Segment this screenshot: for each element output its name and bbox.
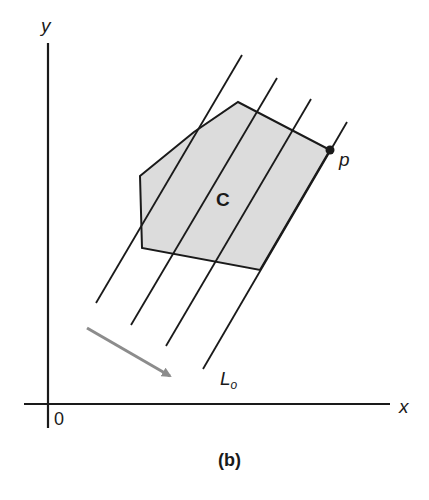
figure-caption: (b) bbox=[218, 451, 241, 469]
linear-programming-figure: y x 0 p C Lo (b) bbox=[0, 0, 429, 500]
origin-label: 0 bbox=[54, 410, 64, 428]
x-axis-label: x bbox=[399, 397, 409, 416]
y-axis-label: y bbox=[41, 16, 51, 35]
point-p-dot bbox=[326, 146, 335, 155]
region-c-label: C bbox=[216, 190, 230, 209]
line-l0-main: L bbox=[220, 368, 231, 389]
line-l0-subscript: o bbox=[231, 378, 238, 392]
direction-arrow bbox=[87, 328, 170, 376]
region-c-polygon bbox=[140, 102, 330, 270]
point-p-label: p bbox=[339, 150, 350, 169]
line-l0-label: Lo bbox=[220, 369, 237, 388]
figure-canvas bbox=[0, 0, 429, 500]
